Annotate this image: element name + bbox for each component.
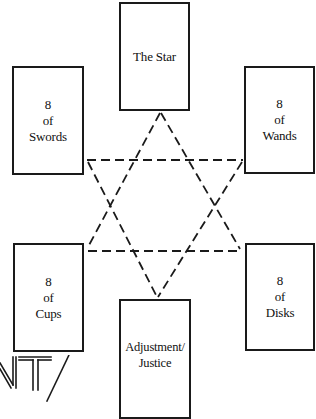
card-label-line: of	[274, 112, 284, 128]
card-8-of-disks: 8 of Disks	[245, 243, 315, 351]
downward-triangle-right-edge	[158, 162, 242, 297]
card-label-line: Swords	[29, 129, 67, 145]
card-label-line: of	[43, 290, 53, 306]
card-label-line: 8	[276, 96, 282, 112]
card-label-line: Justice	[139, 355, 172, 371]
cropped-outline-text-fragment	[0, 355, 80, 405]
card-label-line: The Star	[133, 49, 176, 65]
card-label-line: Cups	[36, 306, 62, 322]
card-label-line: 8	[45, 97, 51, 113]
card-8-of-wands: 8 of Wands	[244, 66, 315, 174]
card-label-line: Disks	[266, 305, 295, 321]
card-adjustment-justice: Adjustment/ Justice	[119, 299, 191, 419]
card-label-line: 8	[277, 273, 283, 289]
card-label-line: of	[275, 289, 285, 305]
card-8-of-cups: 8 of Cups	[13, 243, 84, 352]
card-label-line: Wands	[262, 128, 296, 144]
upward-triangle-left-edge	[88, 113, 160, 247]
card-the-star: The Star	[119, 2, 190, 111]
card-label-line: 8	[45, 274, 51, 290]
card-8-of-swords: 8 of Swords	[12, 66, 84, 175]
card-label-line: of	[43, 113, 53, 129]
card-label-line: Adjustment/	[125, 339, 185, 355]
